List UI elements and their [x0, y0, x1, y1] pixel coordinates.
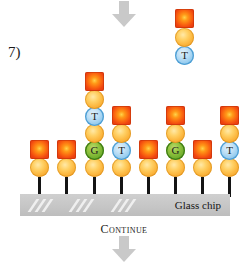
strand-5-fluorophore-square: [139, 140, 158, 159]
glass-chip-label: Glass chip: [175, 199, 221, 211]
strand-6-sugar-bead: [166, 124, 185, 143]
arrow-head: [112, 249, 136, 262]
strand-3-base-t: T: [85, 107, 104, 126]
strand-4-fluorophore-square: [112, 106, 131, 125]
strand-3-sugar-bead: [85, 158, 104, 177]
strand-4-sugar-bead: [112, 124, 131, 143]
arrow-shaft: [119, 1, 129, 15]
strand-8-base-t: T: [220, 141, 239, 160]
strand-8-sugar-bead: [220, 158, 239, 177]
glass-chip: Glass chip: [20, 194, 230, 216]
strand-2-fluorophore-square: [57, 140, 76, 159]
free-nucleotide-base-t: T: [175, 46, 194, 65]
strand-1-sugar-bead: [30, 158, 49, 177]
free-nucleotide-sugar-bead: [175, 28, 194, 47]
strand-2-sugar-bead: [57, 158, 76, 177]
figure-canvas: bases are incorporated and detected 7) T…: [0, 0, 248, 262]
strand-3-base-g: G: [85, 141, 104, 160]
strand-6-sugar-bead: [166, 158, 185, 177]
strand-5-sugar-bead: [139, 158, 158, 177]
strand-8-fluorophore-square: [220, 106, 239, 125]
arrow-shaft: [119, 236, 129, 250]
top-arrow: [112, 1, 136, 27]
continue-label: Continue: [0, 222, 248, 237]
strand-7-sugar-bead: [193, 158, 212, 177]
free-nucleotide-fluorophore-square: [175, 9, 194, 28]
strand-3-sugar-bead: [85, 90, 104, 109]
strand-1-fluorophore-square: [30, 140, 49, 159]
arrow-head: [112, 14, 136, 27]
strand-8-sugar-bead: [220, 124, 239, 143]
strand-4-sugar-bead: [112, 158, 131, 177]
strand-4-base-t: T: [112, 141, 131, 160]
strand-3-fluorophore-square: [85, 72, 104, 91]
strand-7-fluorophore-square: [193, 140, 212, 159]
strand-6-base-g: G: [166, 141, 185, 160]
strand-3-sugar-bead: [85, 124, 104, 143]
strand-6-fluorophore-square: [166, 106, 185, 125]
step-number-label: 7): [8, 44, 21, 61]
bottom-arrow: [112, 236, 136, 262]
